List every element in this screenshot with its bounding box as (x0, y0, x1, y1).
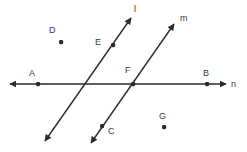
diagram-canvas (0, 0, 247, 152)
line-label-m: m (180, 14, 188, 23)
line-label-n: n (231, 80, 236, 89)
point-label-G: G (159, 112, 166, 121)
point-label-B: B (203, 69, 209, 78)
line-label-l: l (134, 5, 136, 14)
point-F (131, 82, 135, 86)
point-A (36, 82, 40, 86)
point-B (205, 82, 209, 86)
point-label-C: C (108, 127, 115, 136)
geometry-diagram: lmnABCDEFG (0, 0, 247, 152)
point-label-E: E (95, 38, 101, 47)
point-G (162, 125, 166, 129)
line-l (45, 18, 131, 141)
lines-group (10, 18, 226, 143)
point-C (100, 124, 104, 128)
point-label-A: A (29, 69, 35, 78)
point-E (111, 43, 115, 47)
point-label-D: D (49, 26, 56, 35)
point-D (59, 40, 63, 44)
point-label-F: F (125, 66, 131, 75)
